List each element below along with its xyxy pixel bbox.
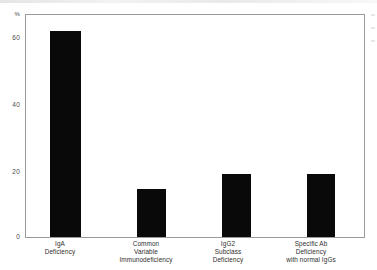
y-axis-tick-20: 20 bbox=[12, 169, 20, 176]
y-axis-tick-60: 60 bbox=[12, 35, 20, 42]
bar-specific-ab-deficiency bbox=[307, 174, 335, 237]
x-label-line: Immunodeficiency bbox=[96, 256, 196, 264]
y-axis-tick-40: 40 bbox=[12, 102, 20, 109]
x-axis-labels: IgA Deficiency Common Variable Immunodef… bbox=[0, 240, 377, 270]
x-label-line: Common bbox=[96, 240, 196, 248]
x-label-line: with normal IgGs bbox=[263, 256, 359, 264]
x-label-line: Deficiency bbox=[187, 256, 269, 264]
bar-series bbox=[26, 15, 364, 237]
x-label-line: IgA bbox=[20, 240, 100, 248]
x-axis-label-igg2-subclass-deficiency: IgG2 Subclass Deficiency bbox=[187, 240, 269, 265]
bar-common-variable-immunodef bbox=[137, 189, 166, 237]
x-axis-label-iga-deficiency: IgA Deficiency bbox=[20, 240, 100, 256]
x-label-line: Variable bbox=[96, 248, 196, 256]
bar-iga-deficiency bbox=[50, 31, 81, 237]
x-axis-label-specific-ab-deficiency: Specific Ab Deficiency with normal IgGs bbox=[263, 240, 359, 265]
x-label-line: IgG2 bbox=[187, 240, 269, 248]
x-label-line: Deficiency bbox=[20, 248, 100, 256]
bar-chart: % 60 40 20 0 IgA Deficiency Common Varia… bbox=[0, 0, 377, 270]
x-label-line: Deficiency bbox=[263, 248, 359, 256]
y-axis-unit-label: % bbox=[14, 11, 20, 17]
bar-igg2-subclass-deficiency bbox=[222, 174, 251, 237]
x-label-line: Subclass bbox=[187, 248, 269, 256]
x-label-line: Specific Ab bbox=[263, 240, 359, 248]
y-axis-labels: % 60 40 20 0 bbox=[0, 0, 24, 270]
x-axis-label-common-variable-immunodef: Common Variable Immunodeficiency bbox=[96, 240, 196, 265]
